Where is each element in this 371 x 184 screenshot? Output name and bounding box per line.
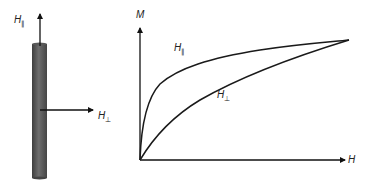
curve-perpendicular [140, 40, 349, 160]
curve-parallel [140, 40, 349, 160]
label-h-perpendicular-wire: H⊥ [98, 111, 111, 123]
curve-label-parallel: H∥ [174, 43, 185, 55]
wire-cylinder [32, 43, 47, 180]
figure-canvas [0, 0, 371, 184]
label-h-parallel-wire: H∥ [14, 15, 25, 27]
x-axis-label: H [348, 155, 355, 165]
y-axis-label: M [136, 10, 144, 20]
curve-label-perpendicular: H⊥ [217, 90, 230, 102]
